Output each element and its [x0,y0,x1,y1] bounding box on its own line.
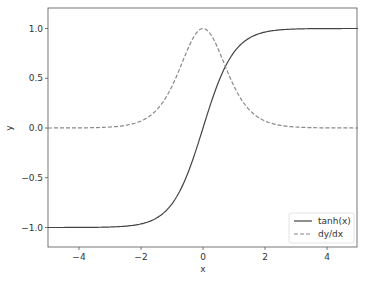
plot-curves [48,29,358,228]
y-axis-label: y [4,125,14,131]
x-tick-label: 4 [324,252,330,262]
x-tick-label: −4 [72,252,86,262]
x-axis-ticks: −4−2024 [72,247,330,262]
x-tick-label: 2 [262,252,268,262]
y-tick-label: 0.5 [29,73,43,83]
chart: −4−2024 −1.0−0.50.00.51.0 x y tanh(x) dy… [0,0,368,283]
y-tick-label: 0.0 [29,123,44,133]
tanh-curve [48,29,358,228]
legend-label-tanh: tanh(x) [318,216,351,226]
x-tick-label: −2 [134,252,147,262]
derivative-curve [48,29,358,128]
y-tick-label: −0.5 [21,173,43,183]
legend: tanh(x) dy/dx [289,213,354,243]
y-axis-ticks: −1.0−0.50.00.51.0 [21,24,48,233]
legend-label-dydx: dy/dx [318,229,344,239]
y-tick-label: −1.0 [21,223,43,233]
x-axis-label: x [200,264,206,274]
y-tick-label: 1.0 [29,24,44,34]
x-tick-label: 0 [200,252,206,262]
